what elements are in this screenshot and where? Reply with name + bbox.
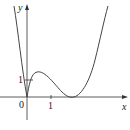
- y-tick-label-1: 1: [18, 75, 23, 85]
- x-tick-label-1: 1: [48, 101, 53, 111]
- function-curve: [14, 6, 108, 97]
- x-axis-label: x: [122, 102, 126, 112]
- origin-label: 0: [19, 100, 24, 110]
- y-axis-arrow-icon: [25, 4, 29, 10]
- function-graph: [0, 0, 130, 130]
- x-axis-arrow-icon: [122, 95, 128, 99]
- y-axis-label: y: [18, 3, 22, 13]
